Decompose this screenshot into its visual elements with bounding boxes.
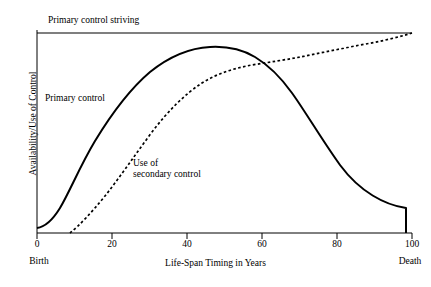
chart-plot-area	[0, 0, 431, 287]
x-tick-label-40: 40	[172, 239, 202, 249]
annotation-secondary-line2: secondary control	[133, 169, 201, 180]
x-axis-title: Life-Span Timing in Years	[0, 258, 431, 269]
annotation-use-of-secondary-control: Use of secondary control	[133, 158, 201, 180]
lifespan-control-chart: Availability/Use of Control Primary cont…	[0, 0, 431, 287]
x-tick-label-60: 60	[247, 239, 277, 249]
x-tick-label-0: 0	[22, 239, 52, 249]
annotation-secondary-line1: Use of	[133, 158, 158, 168]
x-axis-ticks	[37, 233, 412, 239]
series-primary-control	[37, 47, 406, 233]
x-tick-label-80: 80	[322, 239, 352, 249]
annotation-primary-control: Primary control	[45, 93, 105, 104]
x-tick-label-100: 100	[397, 239, 427, 249]
x-tick-label-20: 20	[97, 239, 127, 249]
annotation-primary-control-striving: Primary control striving	[48, 15, 139, 26]
y-axis-title: Availability/Use of Control	[28, 39, 39, 209]
series-use-of-secondary-control	[70, 33, 412, 233]
